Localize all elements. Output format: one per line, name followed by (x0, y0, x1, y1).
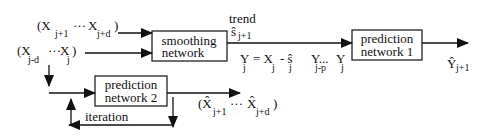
svg-text:j: j (288, 62, 292, 73)
forecasting-diagram: smoothing network prediction network 1 p… (0, 0, 491, 140)
svg-text:j+1: j+1 (54, 28, 68, 39)
output-label: Ŷ j+1 (447, 56, 469, 73)
svg-text:j+d: j+d (255, 106, 269, 117)
prediction2-label-2: network 2 (105, 90, 157, 105)
svg-text:j+1: j+1 (455, 62, 469, 73)
svg-text:j: j (271, 62, 275, 73)
svg-text:): ) (72, 43, 76, 58)
iteration-label: iteration (85, 109, 129, 124)
svg-text:j+1: j+1 (212, 106, 226, 117)
future-inputs-label: (X j+1 ··· X j+d ) (37, 18, 118, 39)
svg-text:j: j (340, 62, 344, 73)
svg-text:j-p: j-p (314, 62, 326, 73)
svg-text:ŝ: ŝ (231, 24, 236, 39)
svg-text:···: ··· (230, 96, 243, 111)
window-label: Y... j-p Y j (311, 51, 346, 73)
prediction-network-1-box: prediction network 1 (352, 30, 422, 60)
smoothing-network-box: smoothing network (152, 31, 227, 61)
svg-text:): ) (273, 96, 277, 111)
svg-text:(X: (X (37, 18, 51, 33)
svg-text:= X: = X (253, 51, 274, 66)
prediction-network-2-box: prediction network 2 (95, 76, 167, 106)
svg-text:···: ··· (73, 18, 86, 33)
svg-text:j-d: j-d (27, 54, 39, 65)
svg-text:j: j (242, 62, 246, 73)
svg-text:j: j (66, 54, 70, 65)
trend-value-label: ŝ j+1 (231, 24, 251, 41)
svg-text:j+d: j+d (96, 28, 110, 39)
residual-equation: Y j = X j - ŝ j (240, 51, 293, 73)
svg-text:j+1: j+1 (237, 30, 251, 41)
svg-text:(X̂: (X̂ (198, 96, 212, 111)
past-inputs-label: (X j-d ··· X j ) (17, 43, 76, 65)
prediction1-label-2: network 1 (361, 44, 413, 59)
smoothing-label-2: network (162, 45, 205, 60)
predicted-outputs-label: (X̂ j+1 ··· X̂ j+d ) (198, 96, 277, 117)
svg-text:): ) (114, 18, 118, 33)
